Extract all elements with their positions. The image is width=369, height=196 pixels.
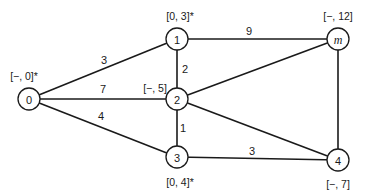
node-0: 0 <box>18 88 40 110</box>
node-3: 3 <box>166 146 188 168</box>
node-4: 4 <box>327 149 349 171</box>
node-0-distance-label: [−, 0]* <box>10 70 38 82</box>
edge-weight-3-4: 3 <box>249 145 255 157</box>
edge-3-4 <box>177 157 338 160</box>
node-id-label: m <box>334 33 343 47</box>
node-m-distance-label: [−, 12] <box>323 10 353 22</box>
node-id-label: 3 <box>174 152 180 164</box>
node-id-label: 2 <box>174 94 180 106</box>
node-3-distance-label: [0, 4]* <box>166 176 193 188</box>
node-4-distance-label: [−, 7] <box>326 178 350 190</box>
edge-weight-0-2: 7 <box>100 83 106 95</box>
node-m: m <box>327 28 349 50</box>
node-id-label: 1 <box>174 34 180 46</box>
graph-diagram: 3742913 0123m4 [−, 0]*[0, 3]*[−, 5][0, 4… <box>0 0 369 196</box>
node-2: 2 <box>166 88 188 110</box>
edge-weight-2-3: 1 <box>180 122 186 134</box>
node-1: 1 <box>166 28 188 50</box>
node-1-distance-label: [0, 3]* <box>166 10 193 22</box>
edge-2-m <box>177 39 338 99</box>
edge-weight-1-2: 2 <box>182 63 188 75</box>
edge-0-3 <box>29 99 177 157</box>
edge-weight-1-m: 9 <box>246 25 252 37</box>
edge-weight-0-3: 4 <box>98 110 104 122</box>
node-id-label: 4 <box>335 155 341 167</box>
node-id-label: 0 <box>26 94 32 106</box>
edge-weight-0-1: 3 <box>101 54 107 66</box>
edge-2-4 <box>177 99 338 160</box>
node-2-distance-label: [−, 5] <box>143 82 167 94</box>
